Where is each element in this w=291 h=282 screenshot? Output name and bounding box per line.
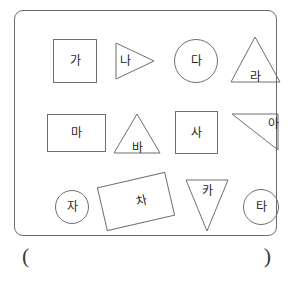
shape-label-ga: 가 xyxy=(53,39,97,83)
shape-label-ma: 마 xyxy=(47,114,106,152)
answer-blank-field[interactable] xyxy=(38,244,263,270)
shape-circle-da: 다 xyxy=(174,39,218,83)
shape-triangle-right-na: 나 xyxy=(115,42,155,80)
shape-triangle-down-ka: 카 xyxy=(185,179,229,232)
shape-label-ka: 카 xyxy=(185,179,229,238)
shape-triangle-up-ra: 라 xyxy=(230,36,281,83)
shape-label-da: 다 xyxy=(174,39,218,83)
shape-rotated-rectangle-cha: 차 xyxy=(97,172,175,232)
worksheet: 가 나 다 라 마 바 xyxy=(0,0,291,282)
shape-label-ta: 타 xyxy=(243,189,279,225)
shape-collection-box: 가 나 다 라 마 바 xyxy=(14,10,277,236)
shape-label-ja: 자 xyxy=(55,190,89,224)
shape-circle-ta: 타 xyxy=(243,189,279,225)
shape-label-cha: 차 xyxy=(97,170,181,231)
shape-label-na: 나 xyxy=(115,42,160,80)
shape-label-sa: 사 xyxy=(175,111,218,154)
shape-triangle-up-ba: 바 xyxy=(113,113,161,154)
shape-circle-ja: 자 xyxy=(55,190,89,224)
shape-square-ga: 가 xyxy=(53,39,97,83)
shape-label-ra: 라 xyxy=(230,36,281,87)
answer-paren-close: ) xyxy=(264,242,271,270)
shape-rectangle-ma: 마 xyxy=(47,114,106,152)
shape-label-ba: 바 xyxy=(113,113,161,157)
shape-label-a: 아 xyxy=(231,113,284,156)
answer-paren-open: ( xyxy=(22,242,29,270)
shape-square-sa: 사 xyxy=(175,111,218,154)
answer-row: ( ) xyxy=(14,242,277,274)
shape-right-triangle-a: 아 xyxy=(231,113,279,151)
